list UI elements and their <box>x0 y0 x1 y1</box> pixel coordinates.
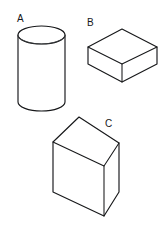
cylinder-body <box>18 35 65 111</box>
solids-canvas: A B C <box>0 0 165 237</box>
shape-cylinder-a <box>18 26 65 111</box>
shape-label-a: A <box>17 13 24 24</box>
shape-label-b: B <box>87 17 94 28</box>
geometric-solids-figure: A B C <box>0 0 165 237</box>
shape-label-c: C <box>105 118 112 129</box>
